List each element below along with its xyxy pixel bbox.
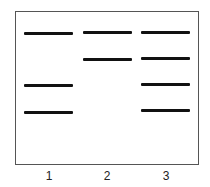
band-lane1-3 [24,111,73,114]
lane-label-3: 3 [156,169,176,183]
lane-label-2: 2 [97,169,117,183]
band-lane1-2 [24,84,73,87]
lane-label-1: 1 [39,169,59,183]
band-lane2-1 [83,31,132,34]
band-lane2-2 [83,58,132,61]
band-lane3-3 [141,83,190,86]
band-lane3-4 [141,109,190,112]
band-lane3-2 [141,57,190,60]
band-lane3-1 [141,31,190,34]
band-lane1-1 [24,32,73,35]
